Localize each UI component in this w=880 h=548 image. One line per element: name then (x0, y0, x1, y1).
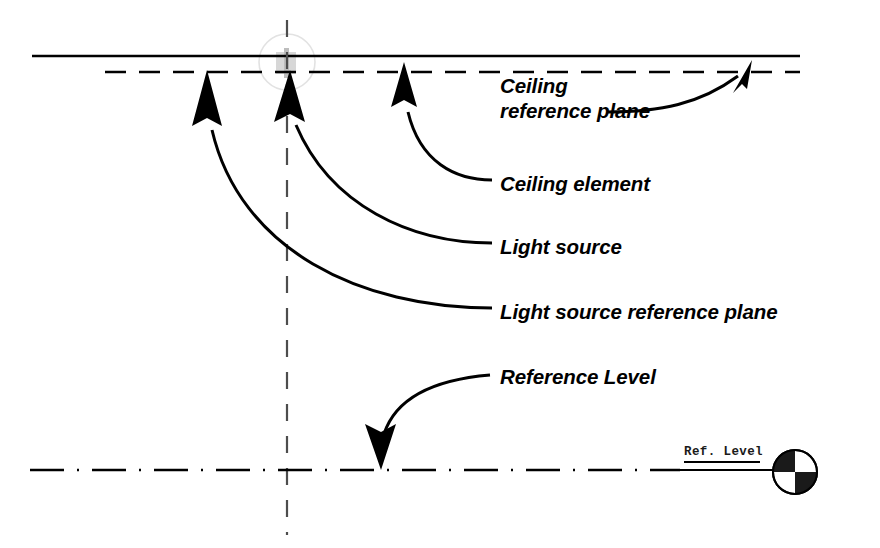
diagram-vector-layer (0, 0, 880, 548)
label-light-source: Light source (500, 234, 622, 259)
label-light-source-reference-plane: Light source reference plane (500, 299, 777, 324)
leader-light-source-reference-plane (212, 130, 492, 308)
arrowhead-reference-level (365, 424, 396, 470)
label-ceiling-reference-plane-line1: Ceiling (500, 74, 568, 97)
arrowhead-light-source (274, 70, 305, 122)
label-ceiling-reference-plane-line2: reference plane (500, 99, 650, 122)
arrowhead-ceiling-element (391, 62, 417, 107)
label-ceiling-reference-plane: Ceilingreference plane (500, 73, 650, 123)
leader-reference-level (384, 375, 490, 434)
level-tag-label: Ref. Level (684, 445, 763, 459)
label-reference-level: Reference Level (500, 364, 656, 389)
arrowhead-light-source-reference-plane (192, 70, 222, 126)
label-ceiling-element: Ceiling element (500, 171, 650, 196)
leader-light-source (296, 125, 492, 243)
leader-ceiling-element (408, 112, 492, 180)
diagram-canvas: Ceilingreference plane Ceiling element L… (0, 0, 880, 548)
